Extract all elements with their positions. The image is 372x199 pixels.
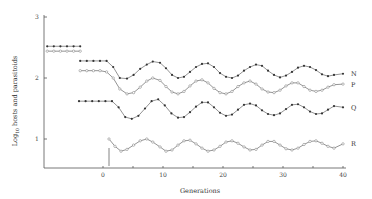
data-point (273, 74, 275, 76)
data-point (177, 77, 179, 79)
axes (44, 15, 346, 168)
data-point (131, 118, 133, 120)
data-point (189, 85, 191, 87)
data-point (152, 141, 154, 143)
data-point (303, 106, 305, 108)
data-point (177, 117, 179, 119)
data-point (279, 112, 281, 114)
data-point (201, 63, 203, 65)
data-point (92, 69, 94, 71)
data-point (219, 91, 221, 93)
data-point (297, 82, 299, 84)
data-point (144, 107, 146, 109)
series-label: Q (351, 104, 356, 112)
data-point (183, 76, 185, 78)
data-point (297, 103, 299, 105)
data-point (201, 147, 203, 149)
data-point (285, 74, 287, 76)
data-point (165, 67, 167, 69)
data-point (165, 150, 167, 152)
data-point (201, 101, 203, 103)
data-point (249, 149, 251, 151)
data-point (309, 66, 311, 68)
data-point (255, 83, 257, 85)
data-point (225, 141, 227, 143)
data-point (157, 98, 159, 100)
x-tick-label: 10 (159, 171, 167, 178)
series-p: P (46, 50, 356, 95)
data-point (164, 104, 166, 106)
data-point (152, 77, 154, 79)
data-point (279, 76, 281, 78)
data-point (255, 148, 257, 150)
data-point (249, 66, 251, 68)
y-tick-label: 1 (35, 135, 39, 142)
data-point (297, 147, 299, 149)
data-point (327, 75, 329, 77)
data-point (106, 60, 108, 62)
data-point (207, 101, 209, 103)
data-point (104, 100, 106, 102)
line-chart: 123 010203040 Generations Log10 hosts an… (0, 0, 372, 199)
data-point (333, 84, 335, 86)
data-point (177, 93, 179, 95)
series-group: NPQR (46, 45, 357, 152)
data-point (267, 140, 269, 142)
data-point (321, 112, 323, 114)
data-point (207, 82, 209, 84)
data-point (195, 106, 197, 108)
data-point (261, 109, 263, 111)
data-point (132, 91, 134, 93)
data-point (92, 60, 94, 62)
data-point (333, 74, 335, 76)
data-point (243, 70, 245, 72)
data-point (91, 100, 93, 102)
data-point (309, 140, 311, 142)
series-label: N (351, 70, 357, 78)
data-point (189, 71, 191, 73)
data-point (118, 106, 120, 108)
data-point (73, 45, 75, 47)
data-point (225, 76, 227, 78)
data-point (99, 69, 101, 71)
data-point (237, 85, 239, 87)
data-point (112, 66, 114, 68)
data-point (53, 45, 55, 47)
data-point (152, 60, 154, 62)
data-point (303, 85, 305, 87)
data-point (79, 50, 81, 52)
data-point (79, 45, 81, 47)
data-point (327, 86, 329, 88)
y-ticks: 123 (35, 13, 47, 142)
data-point (111, 100, 113, 102)
data-point (66, 50, 68, 52)
data-point (146, 138, 148, 140)
data-point (285, 148, 287, 150)
data-point (273, 91, 275, 93)
data-point (237, 142, 239, 144)
data-point (159, 62, 161, 64)
data-point (273, 114, 275, 116)
data-point (273, 140, 275, 142)
data-point (86, 69, 88, 71)
data-point (213, 149, 215, 151)
data-point (267, 113, 269, 115)
data-point (255, 63, 257, 65)
data-point (291, 82, 293, 84)
data-point (231, 114, 233, 116)
data-point (98, 100, 100, 102)
data-point (285, 85, 287, 87)
data-point (243, 104, 245, 106)
data-point (151, 100, 153, 102)
data-point (133, 74, 135, 76)
data-point (213, 66, 215, 68)
data-point (291, 104, 293, 106)
data-point (189, 139, 191, 141)
data-point (46, 45, 48, 47)
data-point (195, 80, 197, 82)
data-point (342, 73, 344, 75)
data-point (261, 88, 263, 90)
data-point (321, 89, 323, 91)
x-tick-label: 30 (279, 171, 287, 178)
data-point (126, 78, 128, 80)
